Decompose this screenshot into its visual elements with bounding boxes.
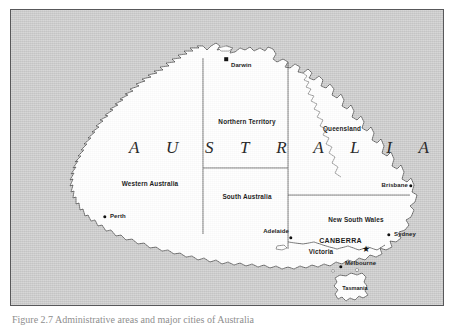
city-marker-darwin: [224, 57, 228, 61]
figure-caption: Figure 2.7 Administrative areas and majo…: [12, 314, 442, 329]
map-frame: A U S T R A L I A Northern Territory Que…: [10, 9, 444, 306]
bass-strait-island: [332, 270, 335, 273]
bass-strait-island: [355, 268, 358, 271]
figure-australia-map: A U S T R A L I A Northern Territory Que…: [0, 0, 459, 329]
tasmania-landmass: [334, 273, 368, 301]
australia-map-graphic: [11, 10, 443, 305]
capital-star-icon: ★: [362, 245, 370, 254]
